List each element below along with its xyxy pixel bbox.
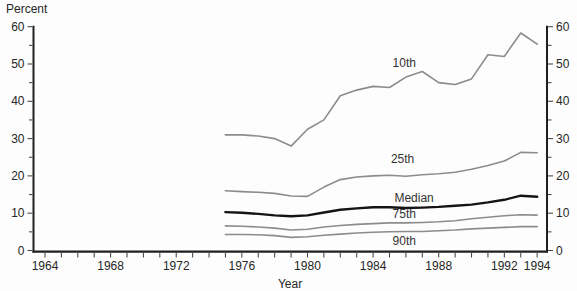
y-tick-label-left-50: 50 bbox=[11, 57, 25, 71]
percentile-line-chart: Percent 00101020203030404050506060196419… bbox=[0, 0, 577, 291]
series-label-25th: 25th bbox=[391, 152, 414, 166]
series-label-median: Median bbox=[394, 191, 433, 205]
y-tick-label-left-20: 20 bbox=[11, 169, 25, 183]
series-line-25th bbox=[225, 152, 537, 196]
x-tick-label-1984: 1984 bbox=[360, 259, 387, 273]
y-tick-label-right-40: 40 bbox=[556, 94, 570, 108]
x-tick-label-1968: 1968 bbox=[97, 259, 124, 273]
y-tick-label-right-50: 50 bbox=[556, 57, 570, 71]
series-line-median bbox=[225, 196, 537, 217]
series-lines bbox=[225, 33, 537, 237]
y-tick-label-left-60: 60 bbox=[11, 20, 25, 34]
x-tick-label-1964: 1964 bbox=[32, 259, 59, 273]
x-axis-title: Year bbox=[278, 277, 302, 291]
series-label-75th: 75th bbox=[393, 207, 416, 221]
figure: Percent 00101020203030404050506060196419… bbox=[0, 0, 577, 291]
y-tick-label-left-10: 10 bbox=[11, 206, 25, 220]
y-tick-label-right-20: 20 bbox=[556, 169, 570, 183]
y-tick-label-right-60: 60 bbox=[556, 20, 570, 34]
x-tick-label-1976: 1976 bbox=[229, 259, 256, 273]
y-tick-label-left-0: 0 bbox=[18, 244, 25, 258]
y-tick-label-left-40: 40 bbox=[11, 94, 25, 108]
axis-ticks bbox=[28, 27, 554, 258]
x-tick-label-1972: 1972 bbox=[163, 259, 190, 273]
y-tick-label-left-30: 30 bbox=[11, 132, 25, 146]
y-tick-label-right-0: 0 bbox=[556, 244, 563, 258]
x-tick-label-1988: 1988 bbox=[425, 259, 452, 273]
x-tick-label-1992: 1992 bbox=[491, 259, 518, 273]
series-label-10th: 10th bbox=[393, 56, 416, 70]
x-tick-label-1994: 1994 bbox=[524, 259, 551, 273]
x-tick-label-1980: 1980 bbox=[294, 259, 321, 273]
y-tick-label-right-10: 10 bbox=[556, 206, 570, 220]
y-tick-label-right-30: 30 bbox=[556, 132, 570, 146]
y-axis-title: Percent bbox=[6, 2, 48, 16]
series-label-90th: 90th bbox=[393, 234, 416, 248]
series-labels: 10th25thMedian75th90th bbox=[391, 56, 434, 248]
series-line-10th bbox=[225, 33, 537, 146]
